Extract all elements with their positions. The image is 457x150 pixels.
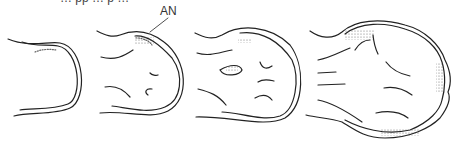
stipple-stage-4-bottom [380,128,420,136]
stage-1-bud [8,39,81,116]
label-an: AN [160,4,177,18]
stage-2-bud [97,18,183,115]
stipple-stage-3 [226,66,238,71]
limb-bud-diagram [0,0,457,150]
stipple-stage-4-right [436,62,444,92]
stipple-stage-4-top [345,30,375,40]
stipple-an [134,37,154,45]
stage-4-handplate [306,21,450,138]
stipple-stage-3-top [238,38,252,43]
